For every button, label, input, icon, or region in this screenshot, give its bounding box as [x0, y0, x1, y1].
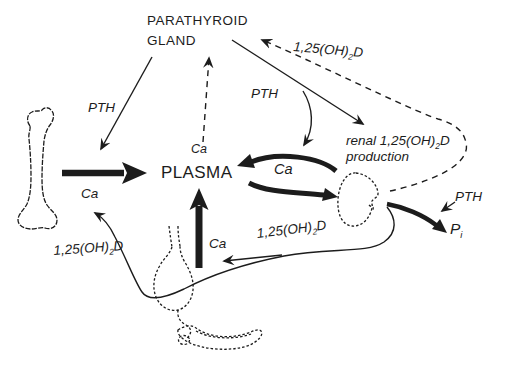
ca-to-parathyroid-dashed-arrow	[203, 58, 209, 142]
parathyroid-line2: GLAND	[147, 34, 248, 48]
pth-label-phosphate: PTH	[455, 190, 482, 204]
bone-to-plasma-arrowhead	[122, 162, 147, 184]
vitd-to-parathyroid-dashed-arrow	[262, 40, 466, 191]
calcium-regulation-diagram: PARATHYROID GLAND PLASMA PTH PTH PTH Ca …	[0, 0, 505, 368]
vitd-d: D	[113, 238, 124, 254]
vitd-d: D	[316, 217, 328, 233]
phosphate-p: P	[450, 220, 460, 237]
renal-production-label: renal 1,25(OH)2D production	[346, 134, 450, 164]
vitd-to-bone-arrow	[95, 207, 394, 298]
renal-production-line1: renal 1,25(OH)2D	[346, 134, 450, 148]
kidney-drawing	[338, 173, 378, 226]
ca-label-bone: Ca	[81, 187, 98, 201]
diagram-canvas	[0, 0, 505, 368]
pth-to-renal-ca-reabsorption-arrow	[303, 91, 311, 145]
ca-label-kidney: Ca	[274, 162, 293, 177]
vitd-label-bone: 1,25(OH)2D	[53, 239, 124, 258]
parathyroid-line1: PARATHYROID	[147, 14, 248, 28]
phosphate-label: Pi	[450, 221, 462, 237]
plasma-to-kidney-arrowhead	[322, 188, 338, 201]
parathyroid-gland-label: PARATHYROID GLAND	[147, 14, 248, 48]
renal-d: D	[440, 133, 450, 148]
plasma-to-kidney-ca-arrow	[249, 183, 324, 195]
pth-to-phosphate-arrow	[442, 202, 455, 211]
ca-label-feedback: Ca	[191, 143, 207, 156]
bone-drawing	[18, 108, 57, 229]
ca-label-intestine: Ca	[209, 237, 226, 251]
plasma-label: PLASMA	[161, 164, 232, 182]
pth-label-bone: PTH	[88, 101, 115, 115]
renal-production-line2: production	[346, 150, 450, 164]
vitd-d: D	[353, 44, 364, 60]
stomach-drawing	[154, 226, 193, 338]
pth-label-kidney: PTH	[251, 87, 278, 101]
renal-text: renal 1,25(OH)	[346, 133, 435, 148]
kidney-to-plasma-arrowhead	[237, 154, 255, 168]
kidney-to-plasma-ca-arrow	[251, 156, 336, 171]
phosphate-subscript: i	[460, 229, 462, 240]
